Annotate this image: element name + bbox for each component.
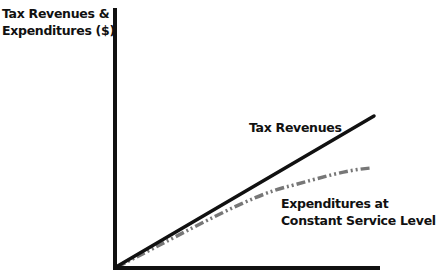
expenditures-label: Expenditures at Constant Service Level xyxy=(281,195,436,229)
expenditures-label-line2: Constant Service Level xyxy=(281,212,436,229)
tax-revenues-label: Tax Revenues xyxy=(249,119,342,136)
expenditures-label-line1: Expenditures at xyxy=(281,195,436,212)
tax-revenue-line xyxy=(116,116,374,267)
